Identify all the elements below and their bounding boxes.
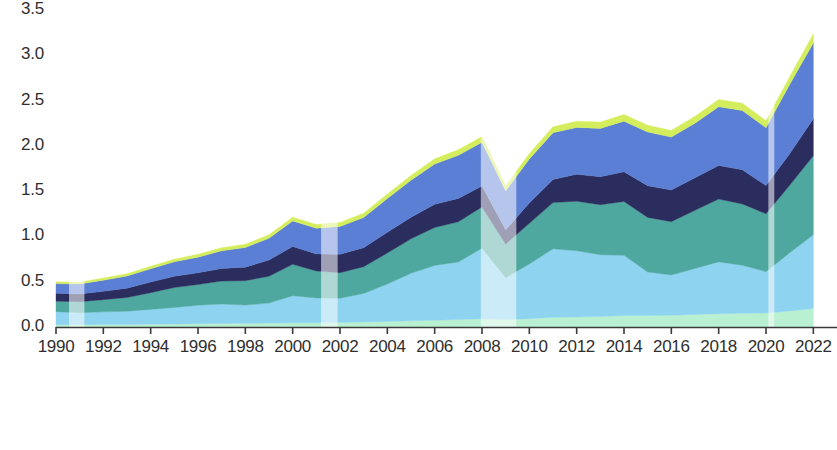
recession-shading-band-3	[768, 10, 774, 327]
y-tick-label: 0.0	[0, 316, 44, 336]
stacked-area-chart-figure: 0.00.51.01.52.02.53.03.5 199019921994199…	[0, 0, 837, 450]
x-tick-label: 1998	[219, 337, 271, 357]
x-tick-label: 1996	[172, 337, 224, 357]
recession-shading-band-0	[69, 10, 84, 327]
x-tick-label: 2002	[314, 337, 366, 357]
chart-svg	[0, 0, 837, 372]
y-tick-label: 2.0	[0, 135, 44, 155]
x-tick-label: 1994	[125, 337, 177, 357]
y-tick-label: 1.0	[0, 225, 44, 245]
x-tick-label: 2014	[598, 337, 650, 357]
y-tick-label: 0.5	[0, 271, 44, 291]
x-tick-label: 2016	[645, 337, 697, 357]
x-tick-label: 2022	[787, 337, 837, 357]
y-tick-label: 1.5	[0, 180, 44, 200]
x-tick-label: 2008	[456, 337, 508, 357]
chart-plot-region: 0.00.51.01.52.02.53.03.5 199019921994199…	[0, 0, 837, 372]
x-tick-label: 2012	[551, 337, 603, 357]
y-tick-label: 2.5	[0, 90, 44, 110]
y-tick-label: 3.5	[0, 0, 44, 19]
x-tick-label: 1990	[30, 337, 82, 357]
x-tick-label: 2004	[361, 337, 413, 357]
x-tick-label: 2020	[740, 337, 792, 357]
recession-shading-band-2	[481, 10, 517, 327]
x-tick-label: 2000	[267, 337, 319, 357]
x-tick-label: 2006	[409, 337, 461, 357]
y-tick-label: 3.0	[0, 44, 44, 64]
recession-shading-band-1	[321, 10, 338, 327]
x-tick-label: 2010	[503, 337, 555, 357]
x-tick-label: 1992	[77, 337, 129, 357]
chart-legend	[0, 374, 837, 450]
x-tick-label: 2018	[693, 337, 745, 357]
